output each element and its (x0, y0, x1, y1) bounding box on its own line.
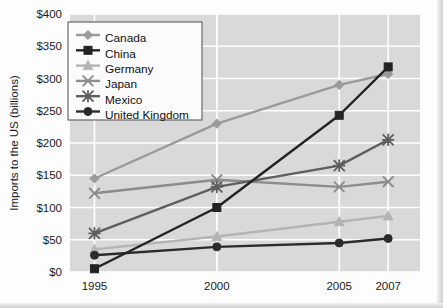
x-tick-label: 1995 (82, 280, 108, 292)
y-tick-label: $0 (49, 266, 62, 278)
x-tick-label: 2000 (204, 280, 230, 292)
data-point-marker (384, 234, 392, 242)
y-axis-ticks: $0$50$100$150$200$250$300$350$400 (36, 8, 62, 278)
y-tick-label: $200 (36, 137, 62, 149)
legend-label: China (105, 47, 136, 61)
line-chart: $0$50$100$150$200$250$300$350$4001995200… (0, 0, 443, 308)
x-tick-label: 2007 (375, 280, 401, 292)
data-point-marker (84, 46, 92, 54)
data-point-marker (335, 239, 343, 247)
y-tick-label: $100 (36, 202, 62, 214)
chart-container: $0$50$100$150$200$250$300$350$4001995200… (0, 0, 443, 308)
data-point-marker (335, 111, 343, 119)
page-edge-shadow-bottom (0, 303, 443, 308)
data-point-marker (83, 91, 94, 102)
data-point-marker (90, 251, 98, 259)
x-axis-ticks: 1995200020052007 (82, 280, 401, 292)
data-point-marker (84, 108, 92, 116)
legend-label: United Kingdom (105, 108, 189, 122)
data-point-marker (89, 228, 100, 239)
data-point-marker (334, 160, 345, 171)
y-tick-label: $350 (36, 40, 62, 52)
y-tick-label: $300 (36, 73, 62, 85)
y-tick-label: $150 (36, 169, 62, 181)
y-tick-label: $400 (36, 8, 62, 20)
y-tick-label: $250 (36, 105, 62, 117)
legend-label: Germany (105, 62, 154, 76)
y-axis-title: Imports to the US (billions) (8, 75, 20, 211)
legend: CanadaChinaGermanyJapanMexicoUnited King… (68, 22, 202, 122)
x-tick-label: 2005 (326, 280, 352, 292)
data-point-marker (383, 134, 394, 145)
y-tick-label: $50 (43, 234, 62, 246)
data-point-marker (90, 265, 98, 273)
data-point-marker (213, 204, 221, 212)
legend-label: Canada (105, 31, 147, 45)
data-point-marker (384, 63, 392, 71)
page-edge-shadow-right (437, 0, 443, 308)
legend-label: Japan (105, 77, 137, 91)
data-point-marker (211, 181, 222, 192)
legend-label: Mexico (105, 93, 143, 107)
data-point-marker (213, 243, 221, 251)
